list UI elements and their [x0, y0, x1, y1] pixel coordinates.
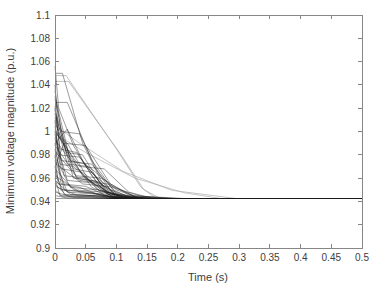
voltage-magnitude-figure: 00.050.10.150.20.250.30.350.40.450.50.90…: [0, 0, 377, 293]
x-tick-label: 0.25: [199, 252, 219, 263]
trace-line: [55, 132, 362, 199]
y-tick-label: 0.98: [31, 149, 51, 160]
x-tick-label: 0.2: [171, 252, 185, 263]
x-axis-label: Time (s): [188, 272, 228, 283]
x-tick-label: 0.15: [137, 252, 157, 263]
chart-canvas: 00.050.10.150.20.250.30.350.40.450.50.90…: [0, 0, 377, 293]
trace-line: [55, 132, 362, 199]
x-tick-label: 0.3: [232, 252, 246, 263]
x-tick-label: 0: [52, 252, 58, 263]
plot-box: [55, 15, 362, 248]
x-tick-label: 0.45: [322, 252, 342, 263]
y-tick-label: 1.02: [31, 103, 51, 114]
y-tick-label: 0.92: [31, 219, 51, 230]
x-tick-label: 0.5: [355, 252, 369, 263]
y-tick-label: 0.94: [31, 196, 51, 207]
y-axis-label: Minimum voltage magnitude (p.u.): [5, 48, 16, 214]
x-tick-label: 0.1: [109, 252, 123, 263]
trace-line: [55, 118, 362, 199]
y-tick-label: 0.9: [36, 243, 50, 254]
y-tick-label: 1: [44, 126, 50, 137]
y-tick-label: 1.1: [36, 10, 50, 21]
x-tick-label: 0.05: [76, 252, 96, 263]
y-tick-label: 1.06: [31, 56, 51, 67]
trace-line: [55, 66, 362, 198]
y-tick-label: 0.96: [31, 173, 51, 184]
x-tick-label: 0.4: [294, 252, 308, 263]
y-tick-label: 1.08: [31, 33, 51, 44]
trace-line: [55, 143, 362, 198]
y-tick-label: 1.04: [31, 79, 51, 90]
x-tick-label: 0.35: [260, 252, 280, 263]
trace-line: [55, 85, 362, 199]
trace-line: [55, 73, 362, 198]
trace-line: [55, 143, 362, 198]
